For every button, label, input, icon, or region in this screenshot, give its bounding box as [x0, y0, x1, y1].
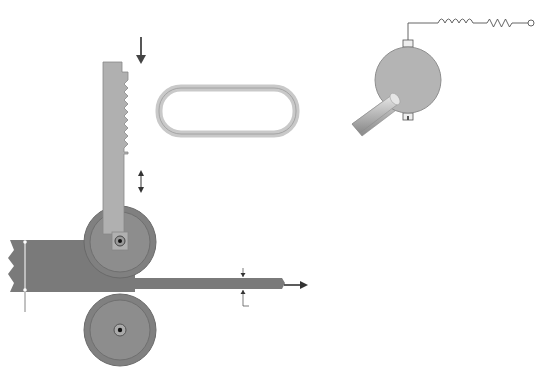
- rolling-mill-diagram: [0, 0, 548, 376]
- material-thin: [120, 278, 285, 289]
- vertical-motion-arrow: [138, 170, 144, 193]
- force-arrow: [136, 37, 146, 64]
- dc-motor: [352, 40, 441, 133]
- rack: [103, 62, 128, 250]
- fixed-roller: [84, 294, 156, 366]
- chain: [159, 88, 296, 134]
- motion-arrow: [284, 281, 308, 289]
